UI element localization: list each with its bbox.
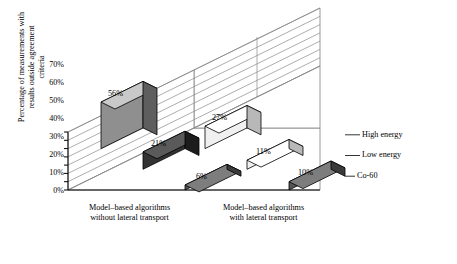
series-label-low-energy: Low energy [362, 150, 401, 159]
chart-container: Percentage of measurements with results … [0, 0, 457, 264]
category-label-2: Model–based algorithms with lateral tran… [196, 203, 331, 223]
depth-axis-leaders [345, 135, 360, 176]
plot-walls [68, 8, 320, 190]
bar-label-low-energy-group1: 21% [151, 139, 166, 148]
series-label-co60: Co-60 [357, 171, 377, 180]
bar-label-high-energy-group1: 56% [108, 89, 123, 98]
series-label-high-energy: High energy [362, 130, 403, 139]
bar-label-low-energy-group2: 11% [256, 147, 271, 156]
category-label-1: Model–based algorithms without lateral t… [62, 203, 197, 223]
bar-label-high-energy-group2: 27% [212, 113, 227, 122]
bar-label-co60-group1: 6% [196, 172, 207, 181]
bar-label-co60-group2: 10% [298, 168, 313, 177]
